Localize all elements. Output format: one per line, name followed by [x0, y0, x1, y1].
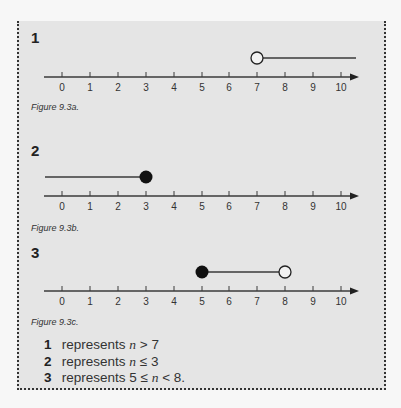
- svg-text:10: 10: [335, 296, 347, 307]
- svg-text:7: 7: [254, 201, 260, 212]
- explanation-item: 1 represents n > 7: [44, 337, 185, 354]
- svg-text:3: 3: [143, 201, 149, 212]
- svg-text:7: 7: [254, 296, 260, 307]
- svg-text:5: 5: [199, 296, 205, 307]
- svg-text:8: 8: [282, 296, 288, 307]
- svg-text:5: 5: [199, 82, 205, 93]
- svg-text:4: 4: [171, 201, 177, 212]
- svg-text:4: 4: [171, 82, 177, 93]
- open-circle-icon: [279, 266, 291, 278]
- svg-text:3: 3: [143, 296, 149, 307]
- figure-1-caption: Figure 9.3a.: [31, 102, 79, 112]
- explanation-item: 3 represents 5 ≤ n < 8.: [44, 370, 185, 387]
- svg-text:1: 1: [87, 296, 93, 307]
- svg-text:1: 1: [87, 82, 93, 93]
- svg-text:6: 6: [226, 201, 232, 212]
- explanation-item: 2 represents n ≤ 3: [44, 354, 185, 371]
- number-line-1: 0 1 2 3 4 5 6 7 8 9 10: [0, 0, 401, 100]
- svg-text:7: 7: [254, 82, 260, 93]
- svg-text:10: 10: [335, 82, 347, 93]
- svg-text:6: 6: [226, 82, 232, 93]
- svg-text:8: 8: [282, 82, 288, 93]
- svg-text:0: 0: [59, 296, 65, 307]
- svg-text:0: 0: [59, 201, 65, 212]
- svg-text:4: 4: [171, 296, 177, 307]
- open-circle-icon: [251, 52, 263, 64]
- svg-text:2: 2: [115, 201, 121, 212]
- svg-text:1: 1: [87, 201, 93, 212]
- number-line-2: 0 1 2 3 4 5 6 7 8 9 10: [0, 119, 401, 219]
- svg-text:2: 2: [115, 296, 121, 307]
- svg-text:5: 5: [199, 201, 205, 212]
- arrow-head-icon: [350, 288, 359, 295]
- svg-text:9: 9: [310, 201, 316, 212]
- closed-circle-icon: [140, 171, 153, 184]
- svg-text:9: 9: [310, 296, 316, 307]
- svg-text:6: 6: [226, 296, 232, 307]
- svg-text:0: 0: [59, 82, 65, 93]
- svg-text:8: 8: [282, 201, 288, 212]
- svg-text:3: 3: [143, 82, 149, 93]
- number-line-3: 0 1 2 3 4 5 6 7 8 9 10: [0, 214, 401, 314]
- arrow-head-icon: [350, 74, 359, 81]
- closed-circle-icon: [196, 266, 209, 279]
- svg-text:10: 10: [335, 201, 347, 212]
- explanation-list: 1 represents n > 7 2 represents n ≤ 3 3 …: [44, 337, 185, 387]
- svg-text:2: 2: [115, 82, 121, 93]
- svg-text:9: 9: [310, 82, 316, 93]
- figure-3-caption: Figure 9.3c.: [31, 317, 79, 327]
- arrow-head-icon: [350, 193, 359, 200]
